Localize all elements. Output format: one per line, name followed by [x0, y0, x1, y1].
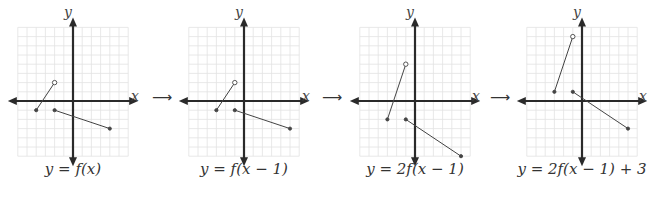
closed-endpoint [35, 109, 38, 112]
closed-endpoint [215, 109, 218, 112]
x-axis-label: x [131, 88, 139, 104]
closed-endpoint [108, 127, 111, 130]
caption-graph-1: y = f(x) [45, 160, 101, 178]
y-axis-label: y [64, 4, 72, 20]
arrowhead-icon [517, 97, 526, 105]
closed-endpoint [553, 90, 556, 93]
x-axis-label: x [472, 88, 480, 104]
caption-graph-3: y = 2f(x − 1) [366, 160, 464, 178]
right-arrow-icon: ⟶ [490, 89, 510, 105]
closed-endpoint [571, 90, 574, 93]
y-axis-label: y [406, 4, 414, 20]
x-axis-label: x [302, 88, 310, 104]
right-arrow-icon: ⟶ [152, 89, 172, 105]
open-endpoint [404, 62, 408, 66]
caption-graph-2: y = f(x − 1) [200, 160, 288, 178]
y-axis-label: y [235, 4, 243, 20]
transformation-diagram: y = f(x) y = f(x − 1) y = 2f(x − 1) y = … [0, 0, 663, 197]
closed-endpoint [459, 155, 462, 158]
right-arrow-icon: ⟶ [322, 89, 342, 105]
closed-endpoint [233, 109, 236, 112]
open-endpoint [571, 34, 575, 38]
arrowhead-icon [8, 97, 17, 105]
closed-endpoint [626, 127, 629, 130]
caption-graph-4: y = 2f(x − 1) + 3 [517, 160, 646, 178]
arrowhead-icon [179, 97, 188, 105]
open-endpoint [52, 80, 56, 84]
arrowhead-icon [350, 97, 359, 105]
x-axis-label: x [639, 88, 647, 104]
closed-endpoint [288, 127, 291, 130]
closed-endpoint [404, 118, 407, 121]
closed-endpoint [386, 118, 389, 121]
y-axis-label: y [573, 4, 581, 20]
open-endpoint [233, 80, 237, 84]
closed-endpoint [53, 109, 56, 112]
